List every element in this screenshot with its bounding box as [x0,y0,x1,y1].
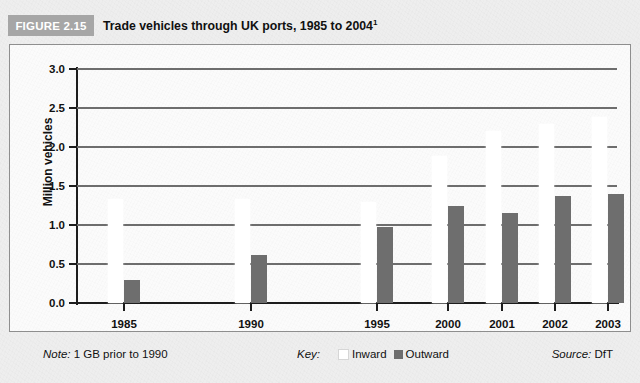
bar-group [486,69,518,303]
note-label: Note: [43,348,71,360]
y-axis-tick-label: 0.5 [49,258,65,270]
bar-outward [124,280,140,303]
figure-title-footnote-marker: 1 [373,18,377,27]
gridline [77,224,617,226]
bar-outward [377,227,393,303]
plot-region: 3.02.52.01.51.00.50.0 198519901995200020… [77,69,617,303]
x-axis-tick [123,303,125,311]
y-axis-title: Million vehicles [41,118,55,207]
legend-item-outward: Outward [394,348,449,360]
x-axis-tick-label: 2000 [435,318,461,330]
x-axis-tick [501,303,503,311]
figure-number-tag: FIGURE 2.15 [8,15,94,36]
bar-group [432,69,464,303]
gridline [77,107,617,109]
figure-source: Source: DfT [552,348,613,360]
bar-outward [448,206,464,304]
x-axis-tick-label: 1985 [111,318,137,330]
figure-note: Note: 1 GB prior to 1990 [43,348,168,360]
legend-swatch-inward-icon [338,349,349,360]
y-axis-tick [69,185,77,187]
legend-text-inward: Inward [352,348,387,360]
bar-group [361,69,393,303]
bar-outward [502,213,518,303]
note-text: 1 GB prior to 1990 [71,348,168,360]
bar-inward [486,131,501,303]
y-axis-tick-label: 0.0 [49,297,65,309]
x-axis-tick-label: 2002 [542,318,568,330]
gridline [77,68,617,70]
figure-title-text: Trade vehicles through UK ports, 1985 to… [103,19,373,33]
chart-area: Million vehicles 3.02.52.01.51.00.50.0 1… [9,44,631,332]
y-axis-tick-label: 1.5 [49,180,65,192]
bar-outward [555,196,571,303]
bar-group [539,69,571,303]
x-axis-tick-label: 1995 [364,318,390,330]
x-axis-tick-label: 2001 [489,318,515,330]
x-axis-tick [250,303,252,311]
legend-item-inward: Inward [338,348,387,360]
y-axis-tick [69,107,77,109]
bar-inward [432,156,447,303]
chart-legend: Key: Inward Outward [297,348,449,360]
x-axis-tick-label: 2003 [595,318,621,330]
gridline [77,302,617,304]
y-axis-tick-label: 3.0 [49,63,65,75]
gridline [77,185,617,187]
x-axis-tick [376,303,378,311]
legend-text-outward: Outward [406,348,449,360]
x-axis-tick-label: 1990 [238,318,264,330]
x-axis-tick [447,303,449,311]
x-axis-tick [607,303,609,311]
source-label: Source: [552,348,592,360]
y-axis-tick [69,263,77,265]
bar-outward [251,255,267,303]
x-axis-tick [554,303,556,311]
bar-group [592,69,624,303]
figure-header: FIGURE 2.15 Trade vehicles through UK po… [8,15,632,36]
gridline [77,146,617,148]
y-axis-tick-label: 2.5 [49,102,65,114]
y-axis-tick [69,68,77,70]
figure-page: FIGURE 2.15 Trade vehicles through UK po… [0,0,640,383]
bar-inward [108,199,123,303]
bar-group [108,69,140,303]
bar-outward [608,194,624,303]
bar-inward [361,202,376,303]
y-axis-tick-label: 1.0 [49,219,65,231]
y-axis-tick [69,146,77,148]
bar-inward [539,124,554,303]
bar-inward [592,117,607,303]
y-axis-tick [69,224,77,226]
bar-inward [235,199,250,303]
legend-swatch-outward-icon [394,350,403,359]
source-text: DfT [591,348,613,360]
legend-label: Key: [297,348,320,360]
figure-footer: Note: 1 GB prior to 1990 Key: Inward Out… [9,340,631,368]
bar-group [235,69,267,303]
gridline [77,263,617,265]
y-axis-tick [69,302,77,304]
figure-title: Trade vehicles through UK ports, 1985 to… [103,18,377,33]
y-axis-tick-label: 2.0 [49,141,65,153]
